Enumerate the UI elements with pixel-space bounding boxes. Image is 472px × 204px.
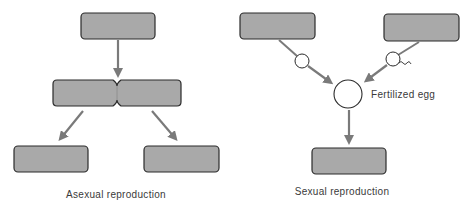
sexual-reproduction-caption: Sexual reproduction	[295, 186, 390, 197]
asexual-reproduction-caption: Asexual reproduction	[66, 189, 166, 200]
asexual-reproduction-panel: Asexual reproduction	[14, 13, 219, 200]
sexual-offspring-box	[312, 148, 386, 174]
arrow-dividing-to-right-offspring	[152, 111, 175, 138]
fertilized-egg-circle	[334, 80, 362, 108]
fertilized-egg-label: Fertilized egg	[371, 89, 435, 100]
reproduction-diagram: Asexual reproduction Fertilized egg Sexu…	[0, 0, 472, 204]
asexual-parent-organism-box	[81, 13, 155, 39]
sexual-reproduction-panel: Fertilized egg Sexual reproduction	[240, 13, 459, 197]
sperm-tail-icon	[399, 62, 411, 65]
sexual-parent-left-box	[240, 13, 315, 39]
asexual-offspring-left-box	[14, 146, 88, 172]
asexual-offspring-right-box	[144, 146, 219, 172]
arrow-egg-to-zygote	[308, 66, 330, 82]
line-right-parent-to-sperm	[398, 42, 419, 55]
line-left-parent-to-egg	[279, 40, 297, 56]
arrow-sperm-to-zygote	[367, 65, 387, 80]
egg-gamete-circle	[295, 54, 309, 68]
arrow-dividing-to-left-offspring	[61, 111, 83, 138]
sperm-gamete-circle	[386, 52, 400, 66]
sexual-parent-right-box	[384, 14, 459, 41]
